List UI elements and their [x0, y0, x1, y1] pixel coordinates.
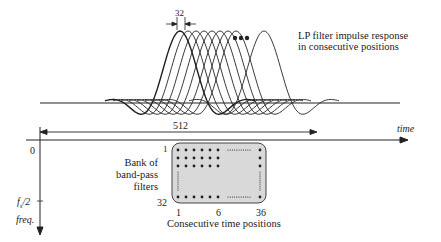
col-first-label: 1 [176, 207, 181, 218]
time-axis [26, 137, 408, 143]
filter-bank-label-line2: band-pass [108, 169, 158, 180]
title-label-line2: in consecutive positions [298, 41, 399, 52]
col-mid-label: 6 [216, 207, 221, 218]
row-first-label: 1 [163, 144, 168, 155]
origin-label: 0 [30, 145, 35, 156]
filter-bank-matrix [172, 143, 266, 203]
freq-axis [37, 127, 43, 235]
row-last-label: 32 [157, 197, 167, 208]
title-label-line1: LP filter impulse response [298, 30, 408, 41]
filter-bank-label-line1: Bank of [118, 157, 158, 168]
filter-bank-xlabel: Consecutive time positions [167, 218, 281, 229]
nyquist-tick-label: fs/2 [17, 196, 30, 212]
filter-bank-label-line3: filters [118, 181, 158, 192]
freq-axis-label: freq. [16, 214, 34, 225]
span-label: 512 [173, 120, 188, 131]
col-last-label: 36 [256, 207, 266, 218]
ellipsis-dots [233, 36, 249, 40]
time-axis-label: time [397, 123, 414, 134]
shift-label: 32 [175, 8, 184, 19]
